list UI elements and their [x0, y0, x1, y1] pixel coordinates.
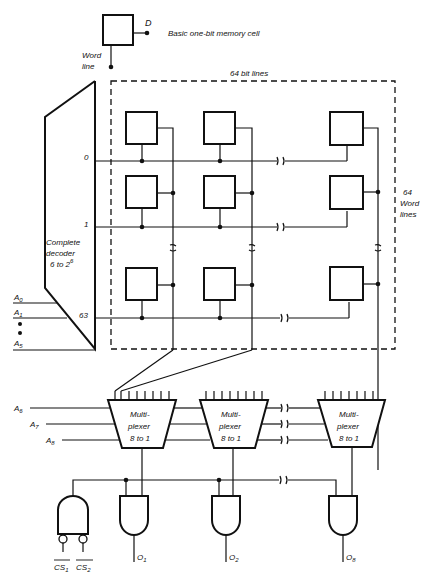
memory-organization-diagram: D Basic one-bit memory cell Word line 64…	[0, 0, 435, 581]
select-input-a7: A7	[29, 420, 39, 430]
mux-3-label-1: Multi-	[339, 410, 359, 419]
decoder-input-a5: A5	[13, 339, 23, 349]
word-line-label-1: Word	[82, 51, 102, 60]
mux-2-label-1: Multi-	[221, 410, 241, 419]
mux-3-label-3: 8 to 1	[339, 434, 359, 443]
output-label-o1: O1	[137, 553, 147, 563]
word-lines-label-2: Word	[400, 199, 420, 208]
decoder-input-a0: A0	[13, 293, 23, 303]
data-pin-label: D	[145, 18, 152, 28]
row-label-63: 63	[79, 311, 88, 320]
row-label-0: 0	[84, 153, 89, 162]
diagram-svg: D Basic one-bit memory cell Word line 64…	[0, 0, 435, 581]
bit-lines-label: 64 bit lines	[230, 69, 268, 78]
word-lines-label-3: lines	[400, 210, 416, 219]
decoder-label-1: Complete	[46, 238, 81, 247]
select-input-a8: A8	[45, 436, 55, 446]
word-line-label-2: line	[82, 62, 95, 71]
multiplexer-3: Multi- plexer 8 to 1	[318, 391, 385, 447]
output-gate-1: O1	[120, 496, 148, 563]
word-lines-label-1: 64	[403, 188, 412, 197]
mux-2-label-2: plexer	[218, 422, 241, 431]
decoder-label-2: decoder	[46, 249, 75, 258]
mux-1-label-2: plexer	[127, 422, 150, 431]
mux-1-label-1: Multi-	[130, 410, 150, 419]
legend-memory-cell: D Basic one-bit memory cell Word line	[82, 15, 260, 71]
output-gate-8: O8	[329, 496, 357, 563]
select-input-a6: A6	[13, 404, 23, 414]
output-gate-2: O2	[212, 496, 240, 563]
decoder-block: Complete decoder 6 to 26 A0 A1 A5	[13, 81, 95, 350]
chip-select-gate: CS1 CS2	[54, 496, 93, 573]
mux-1-label-3: 8 to 1	[130, 434, 150, 443]
output-label-o2: O2	[229, 553, 239, 563]
cs2-input-label: CS2	[76, 563, 91, 573]
decoder-input-a1: A1	[13, 308, 23, 318]
mux-2-label-3: 8 to 1	[221, 434, 241, 443]
decoder-label-3: 6 to 26	[50, 258, 74, 269]
mux-3-label-2: plexer	[336, 422, 359, 431]
cs1-input-label: CS1	[54, 563, 68, 573]
chip-select-bus	[73, 476, 336, 496]
legend-cell-label: Basic one-bit memory cell	[168, 29, 260, 38]
output-label-o8: O8	[346, 553, 356, 563]
row-label-1: 1	[84, 220, 88, 229]
